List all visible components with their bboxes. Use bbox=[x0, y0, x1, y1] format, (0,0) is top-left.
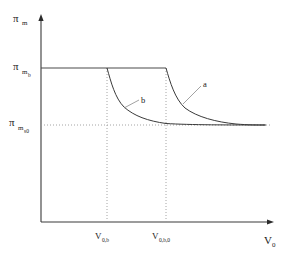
y-axis-title-sub: m bbox=[22, 19, 28, 27]
chart-figure: π m π m b π m s0 V 0,b V 0,b,0 V 0 a b bbox=[0, 0, 294, 257]
x-axis-title-base: V bbox=[264, 234, 272, 246]
x-tick-2-base: V bbox=[152, 231, 159, 241]
y-tick-1-base: π bbox=[13, 60, 19, 72]
leader-line-a bbox=[183, 86, 201, 104]
x-tick-2-sub: 0,b,0 bbox=[159, 237, 170, 243]
leader-line-b bbox=[124, 100, 139, 108]
y-axis-arrow-icon bbox=[38, 14, 43, 21]
y-tick-2-base: π bbox=[9, 116, 15, 128]
x-axis-arrow-icon bbox=[267, 219, 274, 224]
annotation-label-b: b bbox=[141, 95, 145, 105]
curve-b bbox=[107, 68, 265, 125]
x-tick-1-base: V bbox=[95, 231, 102, 241]
y-tick-2-subsub: s0 bbox=[24, 128, 29, 134]
y-axis-title-base: π bbox=[13, 12, 19, 24]
chart-svg: π m π m b π m s0 V 0,b V 0,b,0 V 0 a b bbox=[0, 0, 294, 257]
x-axis-title-sub: 0 bbox=[272, 241, 276, 249]
y-tick-1-subsub: b bbox=[28, 72, 31, 78]
annotation-label-a: a bbox=[203, 79, 207, 89]
curve-a bbox=[166, 68, 266, 125]
x-tick-1-sub: 0,b bbox=[102, 237, 109, 243]
